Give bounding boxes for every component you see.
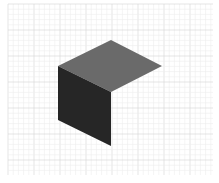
canvas xyxy=(0,0,219,183)
